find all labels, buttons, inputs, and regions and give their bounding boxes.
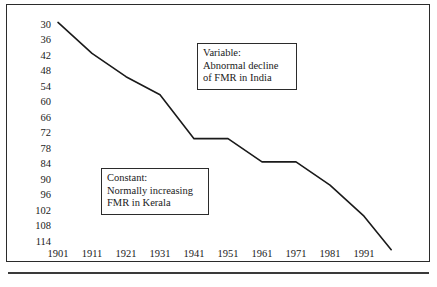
annotation-variable-line: of FMR in India [203,72,291,85]
annotation-constant-line: FMR in Kerala [107,197,203,210]
annotation-constant-line: Constant: [107,172,203,185]
bottom-rule [8,272,429,274]
annotation-variable-line: Abnormal decline [203,60,291,73]
figure-frame: 30 36 42 48 54 60 66 72 78 84 90 96 102 … [6,4,430,262]
annotation-constant-line: Normally increasing [107,185,203,198]
annotation-variable-line: Variable: [203,47,291,60]
annotation-variable: Variable: Abnormal decline of FMR in Ind… [197,43,297,90]
chart-page: 30 36 42 48 54 60 66 72 78 84 90 96 102 … [0,0,437,287]
annotation-constant: Constant: Normally increasing FMR in Ker… [101,168,209,215]
